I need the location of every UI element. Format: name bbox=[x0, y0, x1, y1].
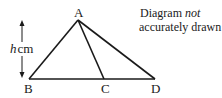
segment-ac bbox=[78, 20, 104, 79]
segment-ab bbox=[29, 20, 78, 79]
note-line-2: accurately drawn bbox=[139, 20, 221, 34]
label-d: D bbox=[151, 81, 160, 96]
arrow-up-icon bbox=[20, 20, 25, 26]
note-line-1: Diagram not bbox=[140, 6, 201, 20]
arrow-down-icon bbox=[20, 72, 25, 78]
label-b: B bbox=[24, 81, 33, 96]
height-label: hcm bbox=[10, 41, 33, 56]
label-c: C bbox=[101, 81, 110, 96]
label-a: A bbox=[74, 5, 84, 20]
triangle-diagram: hcm A B C D Diagram not accurately drawn bbox=[0, 0, 222, 98]
